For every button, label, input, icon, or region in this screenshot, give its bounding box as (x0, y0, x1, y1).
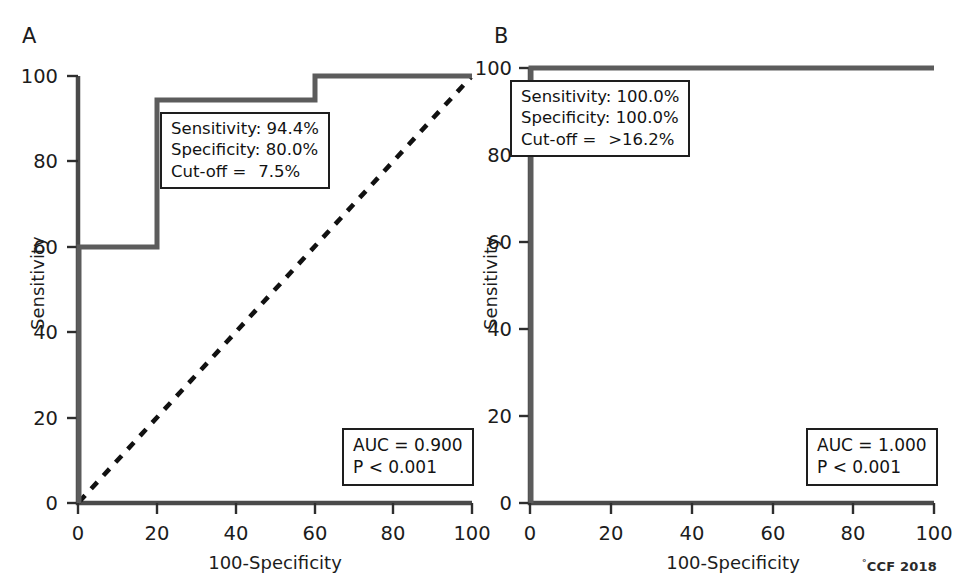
panel-a-cutoff-value: 7.5% (258, 162, 300, 181)
panel-a-y-axis-title: Sensitivity (27, 236, 48, 330)
panel-b-specificity-row: Specificity: 100.0% (521, 107, 679, 128)
panel-b-cutoff-value: >16.2% (608, 130, 674, 149)
panel-a-sensitivity-label: Sensitivity: (171, 119, 261, 138)
panel-a-ytick-0: 0 (6, 492, 58, 515)
panel-a-auc-value: AUC = 0.900 (353, 434, 463, 456)
panel-a-xtick-0: 0 (72, 522, 84, 545)
panel-a-ytick-100: 100 (6, 65, 58, 88)
panel-b-p-value: P < 0.001 (817, 456, 927, 478)
panel-a-specificity-label: Specificity: (171, 140, 260, 159)
panel-b-x-axis-title: 100-Specificity (666, 552, 800, 573)
panel-a-ytick-20: 20 (6, 407, 58, 430)
panel-a-xtick-60: 60 (303, 522, 328, 545)
panel-b-sensitivity-value: 100.0% (617, 87, 680, 106)
panel-b: B 100 80 (488, 0, 976, 587)
panel-a-xtick-80: 80 (381, 522, 406, 545)
panel-a-auc-box: AUC = 0.900 P < 0.001 (342, 428, 474, 486)
panel-b-auc-value: AUC = 1.000 (817, 434, 927, 456)
panel-b-sensitivity-label: Sensitivity: (521, 87, 611, 106)
panel-a-metrics-box: Sensitivity: 94.4% Specificity: 80.0% Cu… (160, 112, 330, 189)
panel-a-xtick-100: 100 (453, 522, 490, 545)
panel-b-xtick-0: 0 (524, 522, 536, 545)
panel-a-xtick-20: 20 (145, 522, 170, 545)
panel-a-cutoff-row: Cut-off =7.5% (171, 161, 319, 182)
panel-b-xtick-100: 100 (915, 522, 952, 545)
panel-a-ytick-80: 80 (6, 150, 58, 173)
panel-a-cutoff-label: Cut-off = (171, 162, 246, 181)
copyright-notice: °CCF 2018 (862, 558, 937, 574)
panel-b-ytick-80: 80 (460, 144, 512, 167)
panel-a-p-value: P < 0.001 (353, 456, 463, 478)
panel-b-xtick-80: 80 (841, 522, 866, 545)
panel-b-xtick-60: 60 (761, 522, 786, 545)
panel-b-ytick-0: 0 (460, 492, 512, 515)
panel-b-cutoff-row: Cut-off =>16.2% (521, 129, 679, 150)
panel-a-plot (0, 0, 488, 587)
panel-b-specificity-value: 100.0% (616, 108, 679, 127)
panel-b-sensitivity-row: Sensitivity: 100.0% (521, 86, 679, 107)
panel-b-xtick-40: 40 (680, 522, 705, 545)
panel-b-ytick-100: 100 (460, 57, 512, 80)
panel-a-specificity-row: Specificity: 80.0% (171, 139, 319, 160)
panel-a-xtick-40: 40 (224, 522, 249, 545)
panel-b-cutoff-label: Cut-off = (521, 130, 596, 149)
panel-b-auc-box: AUC = 1.000 P < 0.001 (806, 428, 938, 486)
panel-a-x-axis-title: 100-Specificity (208, 552, 342, 573)
panel-a-sensitivity-value: 94.4% (267, 119, 319, 138)
panel-a-specificity-value: 80.0% (266, 140, 318, 159)
panel-a-sensitivity-row: Sensitivity: 94.4% (171, 118, 319, 139)
panel-b-y-axis-title: Sensitivity (480, 236, 501, 330)
panel-b-xtick-20: 20 (599, 522, 624, 545)
panel-b-ytick-20: 20 (460, 405, 512, 428)
roc-figure: A (0, 0, 976, 587)
panel-b-metrics-box: Sensitivity: 100.0% Specificity: 100.0% … (510, 80, 690, 157)
copyright-text: CCF 2018 (867, 559, 937, 574)
panel-a: A (0, 0, 488, 587)
panel-b-specificity-label: Specificity: (521, 108, 610, 127)
